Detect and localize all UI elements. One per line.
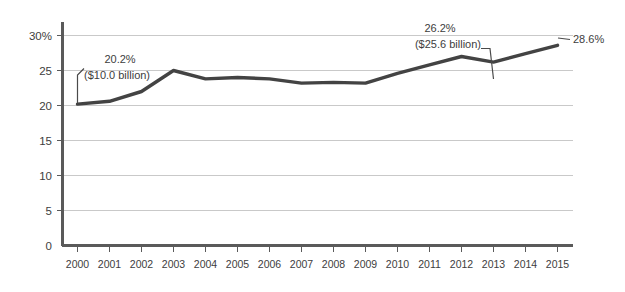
annotation-first: 20.2% ($10.0 billion) [84, 53, 150, 81]
leader-line-2013 [481, 49, 494, 80]
annotation-dip-pct: 26.2% [424, 22, 455, 34]
x-label-2012: 2012 [450, 258, 474, 270]
line-chart: 30% 25 20 15 10 5 0 2000 2001 2002 2003 … [0, 0, 625, 292]
annotation-last-pct: 28.6% [573, 33, 604, 45]
annotation-first-amount: ($10.0 billion) [84, 69, 150, 81]
x-label-2004: 2004 [194, 258, 218, 270]
y-tick-marks [57, 36, 62, 211]
annotation-dip-amount: ($25.6 billion) [415, 38, 481, 50]
x-label-2014: 2014 [514, 258, 538, 270]
x-axis-labels: 2000 2001 2002 2003 2004 2005 2006 2007 … [66, 258, 570, 270]
x-label-2008: 2008 [322, 258, 346, 270]
axes [62, 22, 573, 246]
x-label-2005: 2005 [226, 258, 250, 270]
x-label-2001: 2001 [98, 258, 122, 270]
chart-canvas: 30% 25 20 15 10 5 0 2000 2001 2002 2003 … [0, 0, 625, 292]
leader-line-2015 [558, 38, 570, 40]
y-label-30: 30% [29, 30, 52, 42]
x-label-2007: 2007 [290, 258, 314, 270]
y-label-15: 15 [39, 135, 52, 147]
x-label-2010: 2010 [386, 258, 410, 270]
annotation-first-pct: 20.2% [104, 53, 135, 65]
annotation-last: 28.6% [573, 33, 604, 45]
y-label-0: 0 [46, 240, 52, 252]
x-label-2009: 2009 [354, 258, 378, 270]
x-label-2000: 2000 [66, 258, 90, 270]
y-label-10: 10 [39, 170, 52, 182]
x-label-2003: 2003 [162, 258, 186, 270]
y-axis-labels: 30% 25 20 15 10 5 0 [29, 30, 52, 252]
x-label-2015: 2015 [546, 258, 570, 270]
y-label-5: 5 [46, 205, 52, 217]
x-label-2002: 2002 [130, 258, 154, 270]
y-label-25: 25 [39, 65, 52, 77]
x-tick-marks [78, 246, 558, 252]
x-label-2013: 2013 [482, 258, 506, 270]
x-label-2011: 2011 [418, 258, 441, 270]
x-label-2006: 2006 [258, 258, 282, 270]
y-label-20: 20 [39, 100, 52, 112]
